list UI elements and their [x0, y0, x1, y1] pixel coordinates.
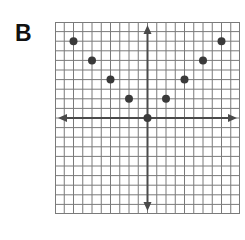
y-axis-down-arrow-icon	[144, 202, 152, 211]
data-point	[70, 37, 78, 45]
data-point	[181, 76, 189, 84]
data-point	[125, 95, 133, 103]
y-axis-up-arrow-icon	[144, 25, 152, 34]
data-point	[107, 76, 115, 84]
scatter-plot-svg	[55, 22, 240, 214]
x-axis-right-arrow-icon	[228, 114, 237, 122]
data-point	[199, 56, 207, 64]
panel-label: B	[15, 22, 32, 45]
data-point	[162, 95, 170, 103]
x-axis-left-arrow-icon	[58, 114, 67, 122]
data-point	[218, 37, 226, 45]
coordinate-grid-plot	[55, 22, 240, 214]
data-point	[88, 56, 96, 64]
data-point	[144, 114, 152, 122]
